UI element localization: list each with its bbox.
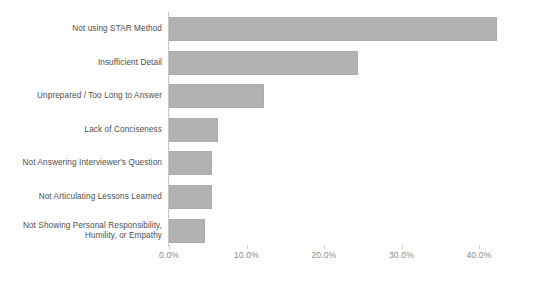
bar-row: Not Answering Interviewer's Question xyxy=(0,151,538,175)
bar-row: Lack of Conciseness xyxy=(0,118,538,142)
bar xyxy=(169,219,205,243)
bar xyxy=(169,17,497,41)
bar-row: Unprepared / Too Long to Answer xyxy=(0,84,538,108)
x-tick-label: 40.0% xyxy=(466,250,491,260)
x-tick-mark xyxy=(169,245,170,249)
x-tick-label: 30.0% xyxy=(389,250,414,260)
plot-area: Not using STAR MethodInsufficient Detail… xyxy=(0,0,538,282)
category-label: Not using STAR Method xyxy=(0,24,162,35)
bar xyxy=(169,185,212,209)
x-tick-mark xyxy=(402,245,403,249)
category-label: Not Articulating Lessons Learned xyxy=(0,192,162,203)
bar xyxy=(169,118,218,142)
x-tick-label: 0.0% xyxy=(159,250,179,260)
category-label: Lack of Conciseness xyxy=(0,125,162,136)
bar-row: Insufficient Detail xyxy=(0,51,538,75)
category-label: Not Answering Interviewer's Question xyxy=(0,158,162,169)
bar-chart: Not using STAR MethodInsufficient Detail… xyxy=(0,0,538,282)
x-tick-label: 20.0% xyxy=(311,250,336,260)
category-label: Insufficient Detail xyxy=(0,57,162,68)
x-tick-mark xyxy=(247,245,248,249)
x-tick-label: 10.0% xyxy=(234,250,259,260)
bar xyxy=(169,84,264,108)
x-tick-mark xyxy=(479,245,480,249)
bar xyxy=(169,151,212,175)
x-tick-mark xyxy=(324,245,325,249)
bar-row: Not using STAR Method xyxy=(0,17,538,41)
category-label: Unprepared / Too Long to Answer xyxy=(0,91,162,102)
bar xyxy=(169,51,358,75)
bar-row: Not Showing Personal Responsibility, Hum… xyxy=(0,219,538,243)
bar-row: Not Articulating Lessons Learned xyxy=(0,185,538,209)
category-label: Not Showing Personal Responsibility, Hum… xyxy=(0,220,162,241)
